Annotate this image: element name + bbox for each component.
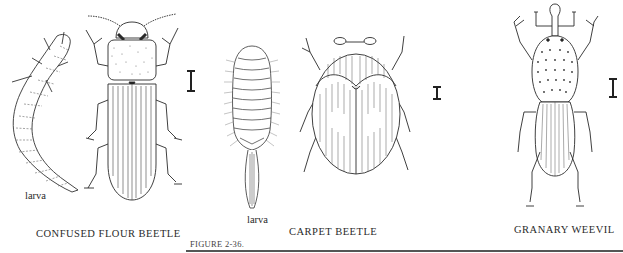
flour-beetle-larva-label: larva [25,190,46,201]
figure-rule [186,250,623,252]
granary-weevil-caption: GRANARY WEEVIL [514,224,615,235]
carpet-beetle-illustration [296,32,416,182]
flour-beetle-larva-illustration [2,28,82,198]
carpet-beetle-larva-label: larva [247,214,268,225]
granary-weevil-illustration [510,2,600,212]
figure-label: FIGURE 2-36. [190,239,244,249]
flour-beetle-scale-bar [190,70,192,92]
carpet-beetle-scale-bar [436,86,438,100]
confused-flour-beetle-illustration [82,4,182,209]
carpet-beetle-larva-illustration [224,42,280,212]
granary-weevil-scale-bar [612,78,614,98]
carpet-beetle-caption: CARPET BEETLE [289,226,377,237]
flour-beetle-caption: CONFUSED FLOUR BEETLE [36,228,181,239]
